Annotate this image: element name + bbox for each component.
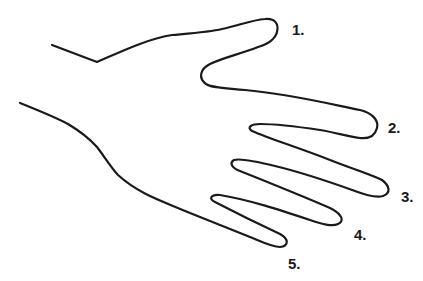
label-ring-finger: 4.	[354, 227, 367, 242]
label-middle-finger: 3.	[401, 189, 414, 204]
hand-outline-path	[20, 19, 389, 247]
label-index-finger: 2.	[388, 120, 401, 135]
label-thumb: 1.	[292, 22, 305, 37]
label-pinky-finger: 5.	[288, 256, 301, 271]
